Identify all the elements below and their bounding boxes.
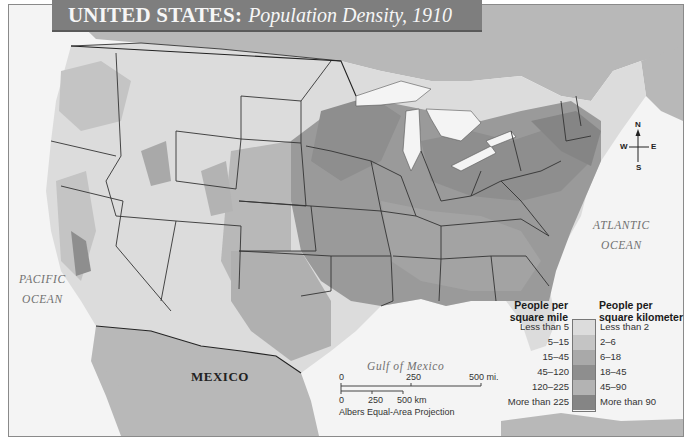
legend-header-mile: People per square mile — [500, 299, 568, 323]
legend-swatch-4 — [573, 365, 595, 380]
label-pacific-ocean: PACIFIC OCEAN — [19, 269, 66, 309]
legend-km-6: More than 90 — [600, 396, 656, 407]
scale-mi-250: 250 — [406, 372, 421, 382]
legend-km-1: Less than 2 — [600, 321, 649, 332]
legend-mile-1: Less than 5 — [520, 321, 569, 332]
scale-bar-lines — [339, 383, 519, 399]
scale-mi-500: 500 mi. — [469, 372, 499, 382]
legend-mile-5: 120–225 — [532, 381, 569, 392]
projection-label: Albers Equal-Area Projection — [339, 407, 455, 417]
map-title-bar: UNITED STATES: Population Density, 1910 — [52, 0, 482, 32]
label-mexico: MEXICO — [191, 369, 249, 385]
title-main: UNITED STATES: — [68, 3, 242, 28]
legend-swatch-3 — [573, 350, 595, 365]
legend-mile-2: 5–15 — [548, 336, 569, 347]
legend-mile-3: 15–45 — [543, 351, 569, 362]
compass-arrow-icon — [620, 120, 670, 180]
scale-km-250: 250 — [368, 395, 383, 405]
scale-mi-0: 0 — [339, 372, 344, 382]
legend-mile-4: 45–120 — [537, 366, 569, 377]
scale-km-500: 500 km — [397, 395, 427, 405]
legend-km-2: 2–6 — [600, 336, 616, 347]
legend-swatch-6 — [573, 395, 595, 410]
legend-header-km: People per square kilometer — [599, 299, 683, 323]
title-subtitle: Population Density, 1910 — [248, 4, 452, 27]
label-atlantic-ocean: ATLANTIC OCEAN — [593, 215, 650, 255]
legend-km-5: 45–90 — [600, 381, 626, 392]
legend-swatch-1 — [573, 320, 595, 335]
scale-km-0: 0 — [339, 395, 344, 405]
legend-swatch-2 — [573, 335, 595, 350]
compass-rose-icon: N W E S — [620, 120, 670, 180]
legend-mile-6: More than 225 — [508, 396, 569, 407]
legend-swatch-5 — [573, 380, 595, 395]
legend-km-3: 6–18 — [600, 351, 621, 362]
legend-km-4: 18–45 — [600, 366, 626, 377]
